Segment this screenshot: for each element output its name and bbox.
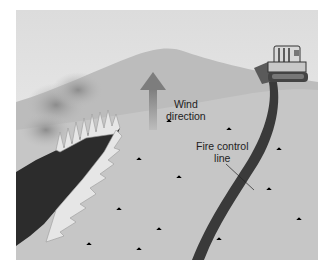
wind-label-line2: direction bbox=[166, 110, 206, 122]
fire-control-line-label: Fire control line bbox=[196, 140, 249, 164]
wind-direction-label: Wind direction bbox=[166, 98, 206, 122]
wind-label-line1: Wind bbox=[166, 98, 206, 110]
scene bbox=[16, 10, 318, 260]
illustration-frame: Wind direction Fire control line bbox=[16, 10, 318, 260]
control-label-line1: Fire control bbox=[196, 140, 249, 152]
control-label-line2: line bbox=[196, 152, 249, 164]
